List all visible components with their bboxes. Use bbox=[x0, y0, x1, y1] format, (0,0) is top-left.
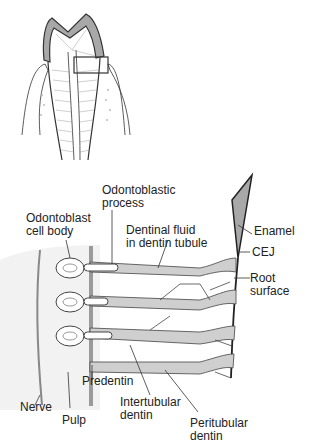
label-intertubular-dentin: Intertubular dentin bbox=[120, 396, 181, 422]
label-peritubular-dentin: Peritubular dentin bbox=[190, 417, 248, 443]
label-cej: CEJ bbox=[252, 246, 275, 259]
tooth-inset bbox=[22, 14, 130, 160]
label-nerve: Nerve bbox=[20, 401, 52, 414]
label-pulp: Pulp bbox=[62, 414, 86, 427]
label-odontoblastic-process: Odontoblastic process bbox=[102, 184, 175, 210]
label-dentinal-fluid: Dentinal fluid in dentin tubule bbox=[126, 224, 207, 250]
label-enamel: Enamel bbox=[254, 225, 295, 238]
label-predentin: Predentin bbox=[82, 375, 133, 388]
label-odontoblast-cell-body: Odontoblast cell body bbox=[26, 212, 91, 238]
label-root-surface: Root surface bbox=[250, 272, 289, 298]
